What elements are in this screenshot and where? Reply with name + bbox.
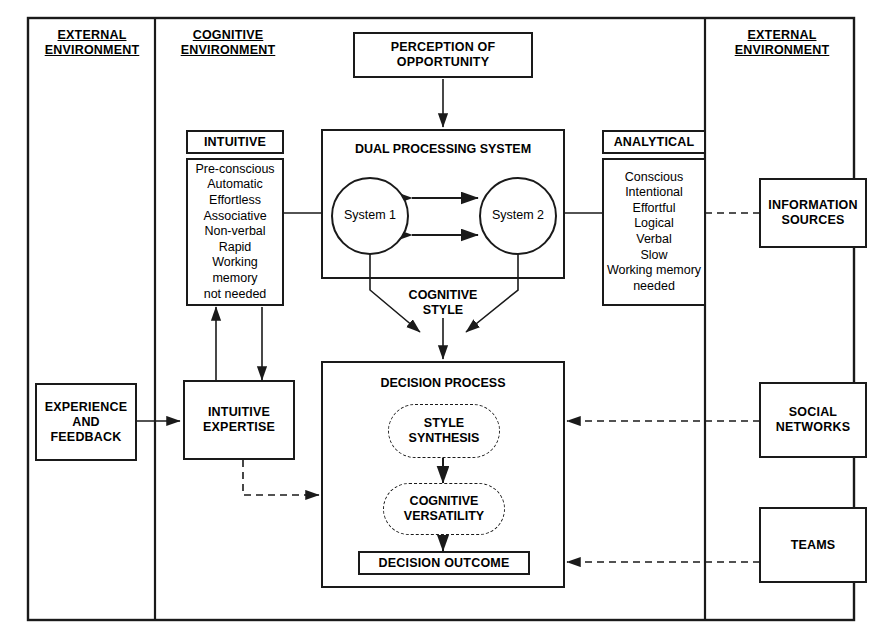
social-networks-box: SOCIAL NETWORKS (759, 382, 867, 458)
teams-box: TEAMS (759, 507, 867, 583)
cognitive-versatility-line2: VERSATILITY (404, 509, 484, 524)
intuitive-expertise-line1: INTUITIVE (208, 405, 270, 420)
intuitive-title-box: INTUITIVE (186, 130, 284, 154)
connector-layer (0, 0, 881, 642)
social-networks-line2: NETWORKS (776, 420, 851, 435)
intuitive-title-label: INTUITIVE (204, 135, 266, 150)
social-networks-line1: SOCIAL (789, 405, 837, 420)
dashed-arrow-expertise-to-decision-process (243, 460, 319, 495)
experience-feedback-line3: FEEDBACK (50, 430, 121, 445)
column-header-right-line2: ENVIRONMENT (712, 43, 852, 58)
perception-of-opportunity-box: PERCEPTION OF OPPORTUNITY (353, 32, 533, 78)
intuitive-traits-list: Pre-conscious Automatic Effortless Assoc… (190, 162, 280, 302)
information-sources-line1: INFORMATION (768, 198, 857, 213)
style-synthesis-line2: SYNTHESIS (409, 431, 480, 446)
system1-label: System 1 (332, 208, 408, 222)
perception-line2: OPPORTUNITY (397, 55, 489, 70)
analytical-title-box: ANALYTICAL (602, 130, 706, 154)
column-header-left-line1: EXTERNAL (30, 28, 154, 43)
decision-process-title: DECISION PROCESS (322, 376, 564, 391)
cognitive-versatility-line1: COGNITIVE (410, 494, 479, 509)
information-sources-box: INFORMATION SOURCES (759, 178, 867, 248)
experience-and-feedback-box: EXPERIENCE AND FEEDBACK (35, 383, 137, 461)
column-header-middle: COGNITIVE ENVIRONMENT (158, 28, 298, 58)
diagram-canvas: EXTERNAL ENVIRONMENT COGNITIVE ENVIRONME… (0, 0, 881, 642)
intuitive-expertise-line2: EXPERTISE (203, 420, 275, 435)
information-sources-line2: SOURCES (781, 213, 844, 228)
column-header-left: EXTERNAL ENVIRONMENT (30, 28, 154, 58)
cognitive-style-line1: COGNITIVE (383, 288, 503, 303)
column-header-right: EXTERNAL ENVIRONMENT (712, 28, 852, 58)
experience-feedback-line1: EXPERIENCE (45, 400, 128, 415)
decision-outcome-box: DECISION OUTCOME (358, 551, 530, 575)
dual-processing-system-title: DUAL PROCESSING SYSTEM (322, 142, 564, 157)
column-header-left-line2: ENVIRONMENT (30, 43, 154, 58)
analytical-title-label: ANALYTICAL (614, 135, 695, 150)
teams-label: TEAMS (791, 538, 836, 553)
system2-label: System 2 (480, 208, 556, 222)
cognitive-versatility-node: COGNITIVE VERSATILITY (383, 483, 505, 535)
analytical-traits-box: Conscious Intentional Effortful Logical … (602, 158, 706, 306)
analytical-traits-list: Conscious Intentional Effortful Logical … (607, 170, 701, 295)
decision-outcome-label: DECISION OUTCOME (379, 556, 510, 571)
intuitive-expertise-box: INTUITIVE EXPERTISE (183, 380, 295, 460)
experience-feedback-line2: AND (72, 415, 100, 430)
column-header-middle-line1: COGNITIVE (158, 28, 298, 43)
intuitive-traits-box: Pre-conscious Automatic Effortless Assoc… (186, 158, 284, 306)
column-header-right-line1: EXTERNAL (712, 28, 852, 43)
style-synthesis-line1: STYLE (424, 416, 464, 431)
perception-line1: PERCEPTION OF (391, 40, 496, 55)
cognitive-style-label: COGNITIVE STYLE (383, 288, 503, 318)
column-header-middle-line2: ENVIRONMENT (158, 43, 298, 58)
style-synthesis-node: STYLE SYNTHESIS (388, 404, 500, 458)
cognitive-style-line2: STYLE (383, 303, 503, 318)
